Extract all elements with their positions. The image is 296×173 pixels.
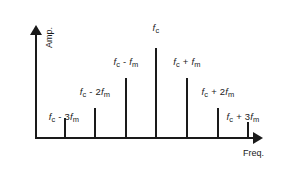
- spectral-line: [217, 108, 219, 138]
- spectral-line: [155, 48, 157, 138]
- spectral-line-label: fc + 2fm: [201, 86, 234, 97]
- x-axis-line: [35, 137, 255, 139]
- spectral-line: [247, 122, 249, 138]
- arrow-up-icon: [30, 25, 42, 35]
- y-axis-title: Amp.: [44, 27, 54, 73]
- spectral-line-label: fc - fm: [113, 56, 138, 67]
- y-axis-line: [35, 33, 37, 139]
- spectral-line-label: fc + 3fm: [226, 111, 259, 122]
- x-axis-title: Freq.: [243, 148, 264, 158]
- spectral-line-label: fc - 2fm: [80, 86, 111, 97]
- spectral-line-label: fc - 3fm: [49, 111, 80, 122]
- spectral-line: [125, 78, 127, 138]
- arrow-right-icon: [253, 132, 263, 144]
- spectral-line: [94, 108, 96, 138]
- spectral-line-label: fc: [153, 22, 160, 33]
- fm-spectrum-figure: Amp. Freq. fc - 3fmfc - 2fmfc - fmfcfc +…: [0, 0, 296, 173]
- spectral-line: [186, 78, 188, 138]
- spectral-line-label: fc + fm: [173, 56, 201, 67]
